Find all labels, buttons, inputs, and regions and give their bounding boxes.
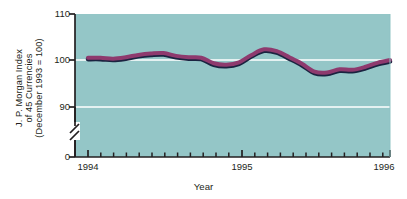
plot-texture [75,14,390,157]
chart-plot-area [0,0,407,199]
chart-figure: J. P. Morgan Index of 45 Currencies (Dec… [0,0,407,199]
